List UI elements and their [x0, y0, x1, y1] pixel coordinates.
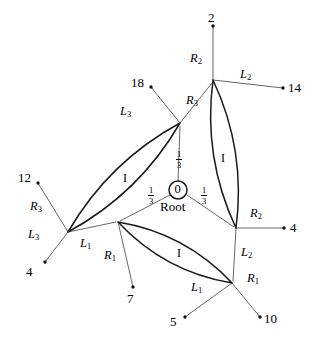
weight-up-denominator: 3 — [176, 161, 182, 170]
branch-12-endpoint-dot — [36, 181, 39, 184]
branch-7-line — [118, 222, 133, 287]
branch-4-right-endpoint-dot — [282, 226, 285, 229]
branch-2-edge-subscript: 2 — [198, 56, 202, 66]
ellipse-bottom-label: I — [177, 247, 181, 259]
branch-left-to-bottom-left-edge-label: L1 — [80, 237, 91, 251]
spoke-root-to-right-bottom — [187, 195, 234, 227]
branch-right-bottom-to-bottom-right-edge-subscript: 2 — [248, 250, 252, 260]
branch-left-to-bottom-left-edge-subscript: 1 — [87, 241, 91, 251]
branch-10-endpoint-dot — [258, 315, 261, 318]
ellipse-bottom — [118, 222, 232, 283]
branch-10-leaf-value: 10 — [264, 312, 277, 325]
branch-18-line — [151, 87, 180, 123]
weight-right-denominator: 3 — [201, 197, 207, 206]
branch-12-line — [38, 183, 68, 232]
branch-10-edge-label: R1 — [247, 272, 259, 286]
branch-18-edge-label: L3 — [120, 105, 131, 119]
branch-7-endpoint-dot — [131, 285, 134, 288]
branch-4-left-endpoint-dot — [43, 260, 46, 263]
weight-right: 13 — [201, 186, 207, 206]
branch-left-to-bottom-left-line — [68, 222, 116, 232]
branch-14-endpoint-dot — [281, 86, 284, 89]
branch-4-left-line — [45, 232, 68, 262]
weight-left-denominator: 3 — [148, 197, 154, 206]
ellipse-right-label: I — [221, 152, 225, 164]
branch-4-left-leaf-value: 4 — [26, 265, 33, 278]
branch-18-endpoint-dot — [149, 85, 152, 88]
branch-14-leaf-value: 14 — [288, 81, 301, 94]
branch-7-leaf-value: 7 — [127, 292, 134, 305]
weight-up-numerator: 1 — [176, 150, 182, 159]
diagram-svg — [0, 0, 312, 346]
branch-18-edge-subscript: 3 — [127, 109, 131, 119]
branch-right-bottom-to-bottom-right-line — [233, 228, 236, 281]
branch-upper-left-to-right-top-edge-label: R3 — [186, 94, 198, 108]
branch-4-right-leaf-value: 4 — [290, 221, 297, 234]
ellipse-left-label: I — [123, 172, 127, 184]
branch-10-edge-subscript: 1 — [255, 276, 259, 286]
branch-4-left-edge-subscript: 3 — [35, 232, 39, 242]
branch-4-right-edge-subscript: 2 — [258, 211, 262, 221]
branch-upper-left-to-right-top-edge-subscript: 3 — [194, 98, 198, 108]
branch-5-leaf-value: 5 — [170, 315, 177, 328]
figure-canvas: 0Root131313IIIL318R3R312L34R22L214R24L2R… — [0, 0, 312, 346]
root-node-label: Root — [160, 200, 185, 213]
weight-left-numerator: 1 — [148, 186, 154, 195]
branch-12-leaf-value: 12 — [18, 171, 31, 184]
branch-right-bottom-to-bottom-right-edge-label: L2 — [241, 246, 252, 260]
root-node-value: 0 — [175, 183, 181, 196]
weight-left: 13 — [148, 186, 154, 206]
branch-7-edge-subscript: 1 — [112, 253, 116, 263]
branch-2-edge-label: R2 — [190, 52, 202, 66]
branch-12-edge-subscript: 3 — [38, 204, 42, 214]
branch-5-endpoint-dot — [183, 315, 186, 318]
branch-14-edge-subscript: 2 — [247, 72, 251, 82]
branch-2-leaf-value: 2 — [208, 11, 215, 24]
branch-4-left-edge-label: L3 — [28, 228, 39, 242]
branch-5-edge-subscript: 1 — [198, 285, 202, 295]
branch-14-edge-label: L2 — [240, 68, 251, 82]
weight-up: 13 — [176, 150, 182, 170]
weight-right-numerator: 1 — [201, 186, 207, 195]
branch-12-edge-label: R3 — [30, 200, 42, 214]
branch-18-leaf-value: 18 — [131, 76, 144, 89]
branch-5-edge-label: L1 — [191, 281, 202, 295]
branch-4-right-edge-label: R2 — [250, 207, 262, 221]
branch-7-edge-label: R1 — [104, 249, 116, 263]
branch-10-line — [232, 283, 260, 317]
